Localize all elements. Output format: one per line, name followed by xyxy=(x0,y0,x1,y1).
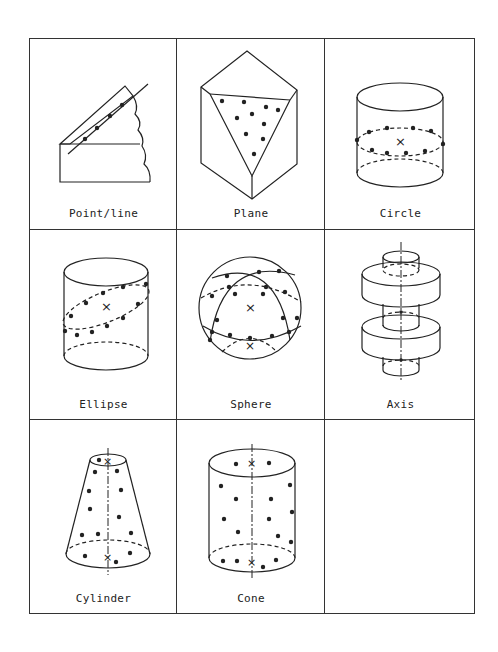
cell-cylinder: × × Cylinder xyxy=(30,420,177,613)
cell-point-line: Point/line xyxy=(30,39,177,230)
cell-label: Cylinder xyxy=(30,592,177,605)
cylinder-icon: × × xyxy=(30,420,177,613)
cell-label: Sphere xyxy=(177,398,325,411)
cell-circle: × Circle xyxy=(325,39,476,230)
cell-sphere: × × Sphere xyxy=(177,230,325,420)
sphere-icon: × × xyxy=(177,230,325,420)
cell-label: Axis xyxy=(325,398,476,411)
cell-label: Cone xyxy=(177,592,325,605)
cone-icon: × × xyxy=(177,420,325,613)
cell-label: Point/line xyxy=(30,207,177,220)
feature-grid: Point/line Plane × xyxy=(29,38,475,614)
plane-icon xyxy=(177,39,325,230)
axis-icon xyxy=(325,230,476,420)
cell-label: Ellipse xyxy=(30,398,177,411)
ellipse-icon: × xyxy=(30,230,177,420)
svg-text:×: × xyxy=(101,299,112,314)
cell-cone: × × Cone xyxy=(177,420,325,613)
circle-icon: × xyxy=(325,39,476,230)
svg-text:×: × xyxy=(103,455,112,468)
svg-text:×: × xyxy=(395,134,406,149)
svg-text:×: × xyxy=(103,551,112,564)
cell-plane: Plane xyxy=(177,39,325,230)
svg-text:×: × xyxy=(247,556,256,569)
cell-ellipse: × Ellipse xyxy=(30,230,177,420)
svg-text:×: × xyxy=(245,339,255,353)
svg-text:×: × xyxy=(247,457,256,470)
point-line-icon xyxy=(30,39,177,230)
svg-text:×: × xyxy=(245,300,256,315)
cell-empty xyxy=(325,420,476,613)
cell-label: Plane xyxy=(177,207,325,220)
cell-label: Circle xyxy=(325,207,476,220)
cell-axis: Axis xyxy=(325,230,476,420)
